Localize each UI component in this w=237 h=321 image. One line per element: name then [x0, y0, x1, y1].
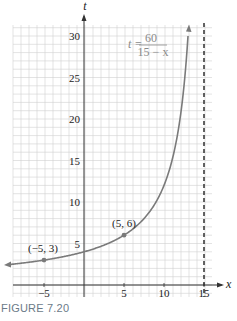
- equation-label: t = 60 15 − x: [128, 31, 168, 59]
- y-tick-label: 30: [69, 30, 81, 42]
- grid: [13, 25, 212, 297]
- y-tick-label: 25: [69, 72, 81, 84]
- data-points: (−5, 3)(5, 6): [28, 217, 136, 262]
- y-tick-label: 20: [69, 113, 81, 125]
- data-point: [42, 258, 47, 263]
- point-label: (5, 6): [112, 217, 136, 230]
- axes: [13, 14, 224, 297]
- point-label: (−5, 3): [28, 242, 58, 255]
- y-tick-label: 5: [75, 238, 81, 250]
- equation-numerator: 60: [145, 31, 157, 45]
- figure-caption: FIGURE 7.20: [1, 302, 69, 314]
- x-tick-label: −5: [38, 287, 50, 299]
- chart: (−5, 3)(5, 6) −55101551015202530 t = 60 …: [0, 0, 237, 321]
- curve: [7, 36, 188, 265]
- y-axis-label: t: [83, 0, 87, 13]
- x-axis-label: x: [225, 277, 232, 291]
- y-tick-label: 10: [69, 196, 81, 208]
- equation-denominator: 15 − x: [138, 45, 169, 59]
- tick-labels: −55101551015202530: [38, 30, 210, 299]
- data-point: [122, 233, 127, 238]
- x-tick-label: 5: [121, 287, 127, 299]
- x-tick-label: 10: [159, 287, 171, 299]
- x-tick-label: 15: [199, 287, 211, 299]
- y-tick-label: 15: [69, 155, 81, 167]
